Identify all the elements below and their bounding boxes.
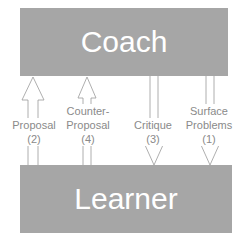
proposal-label-line2: (2)	[12, 132, 56, 146]
critique-label: Critique (3)	[130, 118, 176, 146]
surface-problems-label-line1: Surface	[184, 104, 234, 118]
critique-label-line2: (3)	[130, 132, 176, 146]
surface-problems-label-line2: Problems	[184, 118, 234, 132]
counter-proposal-label-line1: Counter-	[64, 104, 112, 118]
proposal-label-line1: Proposal	[12, 118, 56, 132]
proposal-label: Proposal (2)	[12, 118, 56, 146]
counter-proposal-label: Counter- Proposal (4)	[64, 104, 112, 146]
counter-proposal-label-line2: Proposal	[64, 118, 112, 132]
critique-label-line1: Critique	[130, 118, 176, 132]
counter-proposal-label-line3: (4)	[64, 132, 112, 146]
surface-problems-label-line3: (1)	[184, 132, 234, 146]
surface-problems-label: Surface Problems (1)	[184, 104, 234, 146]
